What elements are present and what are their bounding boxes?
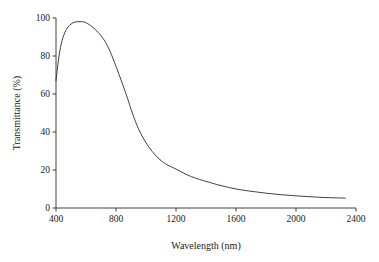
y-axis-title: Transmittance (%)	[11, 76, 23, 150]
x-tick-label: 2400	[347, 214, 366, 224]
x-tick-label: 2000	[287, 214, 306, 224]
transmittance-spectrum-figure: 020406080100 4008001200160020002400 Wave…	[0, 0, 379, 262]
y-tick-label: 80	[41, 51, 51, 61]
chart-canvas: 020406080100 4008001200160020002400 Wave…	[0, 0, 379, 262]
y-tick-label: 0	[45, 203, 50, 213]
x-tick-label: 1200	[167, 214, 186, 224]
y-tick-label: 20	[41, 165, 51, 175]
y-tick-label: 40	[41, 127, 51, 137]
x-tick-label: 800	[109, 214, 124, 224]
x-tick-label: 400	[49, 214, 64, 224]
y-tick-label: 60	[41, 89, 51, 99]
x-axis-title: Wavelength (nm)	[171, 240, 240, 252]
y-tick-label: 100	[36, 13, 51, 23]
x-tick-label: 1600	[227, 214, 246, 224]
